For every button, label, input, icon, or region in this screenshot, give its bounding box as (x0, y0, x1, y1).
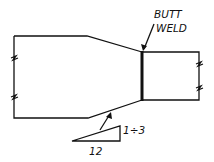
thick-plate-outline (14, 36, 142, 118)
break-mark-right-top (196, 62, 203, 66)
break-mark-left-top (11, 56, 18, 60)
slope-triangle (72, 126, 120, 141)
thin-plate-outline (142, 52, 199, 100)
slope-run-label: 12 (89, 145, 103, 157)
weld-label-line2: WELD (156, 22, 187, 34)
break-mark-right-bottom (196, 86, 203, 90)
weld-leader-line (144, 24, 154, 49)
slope-rise-label: 1÷3 (123, 124, 145, 136)
break-mark-left-bottom (11, 95, 18, 99)
weld-diagram: BUTT WELD 1÷3 12 (0, 0, 214, 162)
weld-label-line1: BUTT (154, 8, 183, 20)
